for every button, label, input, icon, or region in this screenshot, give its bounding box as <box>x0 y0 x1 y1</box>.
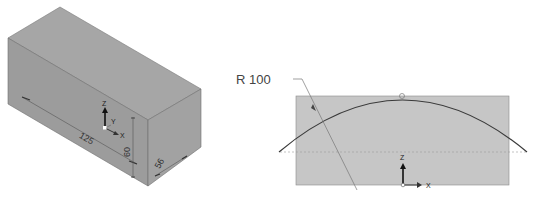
diagram-canvas: 125 60 56 Z <box>0 0 534 198</box>
isometric-box: 125 60 56 Z <box>8 7 201 186</box>
axis-x-label: X <box>120 132 125 139</box>
dimension-height-label: 60 <box>122 147 132 157</box>
axis-x-label-right: X <box>426 182 431 189</box>
axis-z-label-right: Z <box>400 154 405 161</box>
axis-z-label: Z <box>102 100 107 107</box>
radius-label: R 100 <box>236 72 271 87</box>
axis-y-label: Y <box>111 118 116 125</box>
sketch-arc: R 100 Z X <box>236 72 527 190</box>
